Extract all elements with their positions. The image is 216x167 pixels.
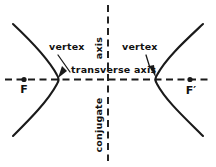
- conjugate-axis-word-axis-label: axis: [93, 37, 104, 59]
- focus-left-label: F: [20, 83, 28, 96]
- transverse-axis-label: transverse axis: [71, 64, 156, 75]
- focus-right-dot: [187, 77, 192, 82]
- hyperbola-figure: vertex vertex transverse axis axis conju…: [0, 0, 216, 167]
- focus-left-dot: [21, 77, 26, 82]
- focus-right-label: F′: [186, 84, 197, 97]
- vertex-left-arrowhead: [58, 66, 67, 78]
- vertex-left-label: vertex: [49, 41, 85, 52]
- conjugate-axis-label: conjugate: [93, 98, 104, 153]
- vertex-right-label: vertex: [122, 41, 158, 52]
- hyperbola-svg: vertex vertex transverse axis axis conju…: [0, 0, 216, 167]
